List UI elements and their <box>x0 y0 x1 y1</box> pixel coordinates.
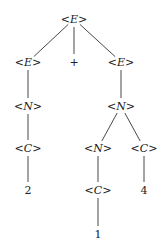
nonterminal-node: <E> <box>61 13 87 26</box>
terminal-node: 1 <box>95 228 102 241</box>
tree-edge <box>125 113 140 141</box>
tree-edge <box>34 24 68 56</box>
nonterminal-node: <C> <box>15 142 42 155</box>
terminal-node: 2 <box>25 184 32 197</box>
nonterminal-node: <N> <box>14 100 42 113</box>
nonterminal-node: <E> <box>108 56 134 69</box>
nonterminal-node: <C> <box>131 142 158 155</box>
tree-edge <box>80 24 115 56</box>
terminal-node: 4 <box>141 184 148 197</box>
nonterminal-node: <N> <box>84 142 112 155</box>
tree-edge <box>102 113 117 141</box>
terminal-node: + <box>69 56 78 69</box>
nonterminal-node: <C> <box>85 184 112 197</box>
nonterminal-node: <N> <box>107 100 135 113</box>
nonterminal-node: <E> <box>15 56 41 69</box>
parse-tree: <E><E>+<E><N><N><C><N><C>2<C>41 <box>0 0 166 251</box>
